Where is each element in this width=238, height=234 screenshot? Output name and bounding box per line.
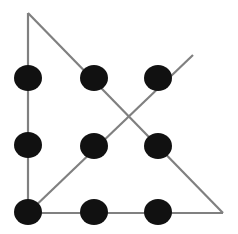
- dot-top-right: [144, 65, 172, 91]
- dot-bottom-left: [14, 199, 42, 225]
- dot-top-left: [14, 65, 42, 91]
- dot-middle-center: [80, 133, 108, 159]
- descending-diagonal-line: [28, 13, 223, 213]
- dot-middle-left: [14, 132, 42, 158]
- dot-top-center: [80, 65, 108, 91]
- dot-bottom-right: [144, 199, 172, 225]
- dot-bottom-center: [80, 199, 108, 225]
- dot-middle-right: [144, 133, 172, 159]
- dot-layer: [14, 65, 172, 225]
- nine-dots-puzzle-figure: [0, 0, 238, 234]
- puzzle-canvas: [0, 0, 238, 234]
- line-layer: [27, 13, 223, 213]
